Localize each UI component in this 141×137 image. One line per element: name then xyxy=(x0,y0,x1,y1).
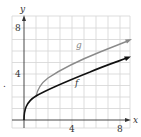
x-tick-8: 8 xyxy=(117,124,123,134)
y-tick-4: 4 xyxy=(15,69,21,79)
y-tick-8: 8 xyxy=(15,23,21,33)
function-graph: x y 4 8 4 8 . g f xyxy=(0,0,141,137)
grid xyxy=(12,16,130,128)
y-axis-label: y xyxy=(19,4,26,14)
x-axis xyxy=(12,118,131,122)
curve-g-arrow-icon xyxy=(125,39,132,44)
curve-g-label: g xyxy=(76,40,82,50)
x-tick-4: 4 xyxy=(69,124,75,134)
x-axis-label: x xyxy=(133,115,138,125)
curve-f-label: f xyxy=(74,78,80,88)
curve-f xyxy=(24,58,127,120)
stray-dot: . xyxy=(3,79,6,89)
